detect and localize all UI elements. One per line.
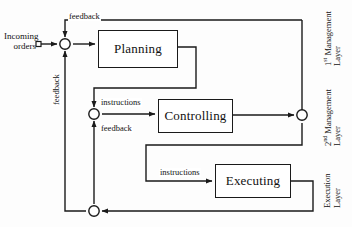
edge-label-feedback-top: feedback	[68, 12, 101, 21]
layer-label-1-line2: Layer	[332, 46, 343, 66]
layer-label-3-line1: Execution	[322, 174, 332, 208]
node-controlling[interactable]: Controlling	[158, 99, 233, 133]
edge-label-feedback-left: feedback	[52, 73, 61, 106]
edge-label-instructions-middle: instructions	[100, 98, 142, 107]
layer-label-3: Execution Layer	[322, 174, 333, 208]
junction-right	[297, 110, 307, 120]
layer-label-3-line2: Layer	[332, 188, 343, 208]
node-executing[interactable]: Executing	[215, 164, 291, 198]
junction-middle	[89, 109, 99, 119]
node-planning[interactable]: Planning	[98, 30, 178, 68]
layer-label-1-sup: st	[322, 58, 328, 62]
node-controlling-label: Controlling	[164, 108, 226, 124]
junction-bottom	[89, 206, 99, 216]
edge-label-feedback-middle: feedback	[100, 124, 133, 133]
incoming-orders-label: Incoming orders	[4, 31, 36, 52]
node-executing-label: Executing	[226, 173, 281, 189]
incoming-orders-terminal	[36, 42, 41, 47]
layer-label-2-line2: Layer	[332, 126, 343, 146]
incoming-orders-line1: Incoming	[4, 31, 39, 41]
diagram-canvas: Planning Controlling Executing Incoming …	[0, 0, 352, 227]
layer-label-1: 1st Management Layer	[322, 11, 333, 66]
edge-bottom-to-top-feedback	[65, 51, 86, 211]
incoming-orders-line2: orders	[14, 41, 37, 51]
node-planning-label: Planning	[114, 41, 162, 57]
junction-top	[60, 39, 70, 49]
layer-label-2-sup: nd	[322, 136, 328, 142]
layer-label-2: 2nd Management Layer	[322, 89, 333, 146]
edge-label-instructions-bottom: instructions	[159, 168, 201, 177]
